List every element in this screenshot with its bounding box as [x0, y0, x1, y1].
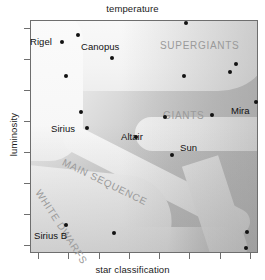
bottom-axis-title: star classification [0, 264, 265, 275]
top-axis-title: temperature [0, 3, 265, 14]
star-point [184, 21, 188, 25]
y-axis-tick [24, 90, 30, 91]
star-point [76, 33, 80, 37]
star-label-rigel: Rigel [30, 36, 52, 47]
star-label-sirius: Sirius [51, 123, 75, 134]
star-point-canopus [110, 56, 114, 60]
star-point-sirius-b [64, 223, 68, 227]
y-axis-tick [24, 59, 30, 60]
star-point [163, 115, 167, 119]
y-axis-tick [24, 183, 30, 184]
star-point [210, 113, 214, 117]
x-axis-tick [38, 253, 39, 259]
x-axis-tick [159, 253, 160, 259]
x-axis-tick [189, 253, 190, 259]
y-axis-tick [24, 121, 30, 122]
plot-bottom-shading [31, 21, 257, 252]
left-axis-title: luminosity [8, 90, 19, 180]
star-point-sun [170, 153, 174, 157]
star-point-sirius [85, 126, 89, 130]
star-point [244, 246, 248, 250]
star-point [79, 110, 83, 114]
y-axis-tick [24, 28, 30, 29]
x-axis-tick [68, 253, 69, 259]
x-axis-tick [129, 253, 130, 259]
star-point [228, 70, 232, 74]
star-point [245, 230, 249, 234]
region-label-giants: GIANTS [163, 110, 204, 121]
x-axis-tick [220, 253, 221, 259]
star-label-mira: Mira [231, 105, 250, 116]
star-point-mira [254, 100, 258, 104]
star-label-sun: Sun [180, 142, 197, 153]
star-point [112, 231, 116, 235]
x-axis-tick [99, 253, 100, 259]
region-label-supergiants: SUPERGIANTS [160, 40, 239, 51]
x-axis-tick [250, 253, 251, 259]
star-label-canopus: Canopus [81, 41, 119, 52]
y-axis-tick [24, 214, 30, 215]
hr-diagram-figure: temperature star classification luminosi… [0, 0, 265, 280]
star-label-altair: Altair [121, 131, 143, 142]
y-axis-tick [24, 152, 30, 153]
star-point [182, 74, 186, 78]
star-point [64, 74, 68, 78]
star-point-rigel [60, 40, 64, 44]
y-axis-tick [24, 245, 30, 246]
star-label-sirius-b: Sirius B [34, 230, 67, 241]
plot-area [30, 20, 258, 253]
star-point [234, 62, 238, 66]
